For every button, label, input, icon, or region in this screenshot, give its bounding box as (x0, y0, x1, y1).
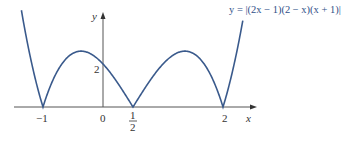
x-axis-label: x (245, 112, 251, 124)
equation-label: y = |(2x − 1)(2 − x)(x + 1)| (229, 4, 341, 16)
graph: y x 2 −1 0 1 2 2 y = |(2x − 1)(2 − x)(x … (0, 0, 346, 142)
x-tick-half-denominator: 2 (130, 121, 136, 133)
x-tick-half-numerator: 1 (130, 109, 136, 121)
x-axis-arrow-icon (250, 105, 257, 110)
y-axis-label: y (91, 10, 97, 22)
x-tick-2: 2 (222, 112, 228, 124)
y-tick-2: 2 (94, 63, 100, 75)
function-curve (21, 10, 242, 107)
x-tick-0: 0 (100, 112, 106, 124)
y-axis-arrow-icon (101, 12, 106, 19)
x-tick-neg1: −1 (36, 112, 48, 124)
